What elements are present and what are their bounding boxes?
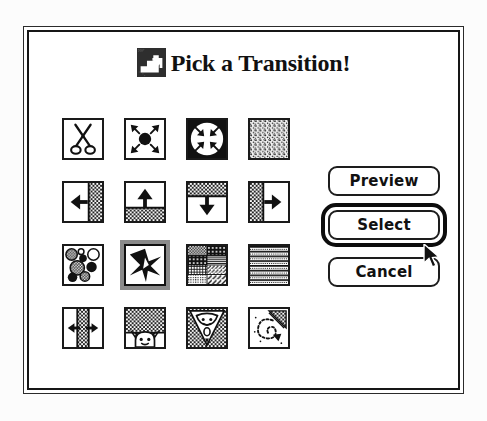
curtain-up-face-icon	[126, 309, 164, 347]
wipe-left-icon	[64, 183, 102, 221]
transition-cell-wipe-down[interactable]	[186, 181, 228, 223]
preview-button[interactable]: Preview	[328, 166, 440, 196]
horizontal-blinds-icon	[250, 246, 288, 284]
split-open-icon	[64, 309, 102, 347]
bubbles-icon	[64, 246, 102, 284]
wipe-down-icon	[188, 183, 226, 221]
pick-a-transition-dialog: Pick a Transition!	[23, 26, 464, 394]
transition-thumb	[124, 181, 166, 223]
transition-cell-iris-open[interactable]	[124, 118, 166, 160]
transition-thumb	[186, 244, 228, 286]
wipe-right-icon	[250, 183, 288, 221]
transition-cell-bubbles[interactable]	[62, 244, 104, 286]
transition-cell-wipe-right[interactable]	[248, 181, 290, 223]
zoom-cone-face-icon	[188, 309, 226, 347]
iris-open-icon	[126, 120, 164, 158]
transition-grid	[62, 118, 290, 349]
transition-thumb	[124, 118, 166, 160]
transition-thumb-selected	[120, 240, 170, 290]
transition-thumb	[186, 181, 228, 223]
select-button-label: Select	[357, 216, 411, 234]
transition-cell-spiral[interactable]	[248, 307, 290, 349]
dialog-title-row: Pick a Transition!	[29, 48, 458, 77]
transition-thumb	[248, 307, 290, 349]
transition-thumb	[248, 181, 290, 223]
transition-cell-dissolve[interactable]	[248, 118, 290, 160]
pattern-tiles-icon	[188, 246, 226, 284]
transition-cell-wipe-up[interactable]	[124, 181, 166, 223]
transition-thumb	[186, 307, 228, 349]
transition-cell-star-burst[interactable]	[124, 244, 166, 286]
scanned-page: Pick a Transition!	[0, 0, 487, 421]
transition-staircase-arrow-icon	[137, 48, 166, 77]
transition-cell-split-open[interactable]	[62, 307, 104, 349]
cancel-button-label: Cancel	[355, 263, 412, 281]
transition-cell-iris-close[interactable]	[186, 118, 228, 160]
spiral-swirl-icon	[250, 309, 288, 347]
star-burst-icon	[126, 246, 164, 284]
dialog-button-column: Preview Select Cancel	[328, 166, 444, 287]
transition-thumb	[62, 307, 104, 349]
transition-thumb	[62, 244, 104, 286]
cancel-button[interactable]: Cancel	[328, 257, 440, 287]
transition-cell-patterns[interactable]	[186, 244, 228, 286]
transition-cell-venetian-blinds[interactable]	[248, 244, 290, 286]
scissors-icon	[64, 120, 102, 158]
select-button[interactable]: Select	[328, 210, 440, 240]
transition-thumb	[124, 307, 166, 349]
transition-cell-curtain-up[interactable]	[124, 307, 166, 349]
page-title: Pick a Transition!	[171, 51, 351, 75]
transition-cell-cut[interactable]	[62, 118, 104, 160]
iris-close-icon	[188, 120, 226, 158]
dialog-inner-frame: Pick a Transition!	[27, 30, 460, 390]
transition-thumb	[248, 244, 290, 286]
transition-thumb	[186, 118, 228, 160]
transition-cell-wipe-left[interactable]	[62, 181, 104, 223]
transition-thumb	[62, 118, 104, 160]
dissolve-speckle-icon	[250, 120, 288, 158]
preview-button-label: Preview	[350, 172, 419, 190]
transition-cell-zoom-cone[interactable]	[186, 307, 228, 349]
transition-thumb	[248, 118, 290, 160]
transition-thumb	[62, 181, 104, 223]
wipe-up-icon	[126, 183, 164, 221]
